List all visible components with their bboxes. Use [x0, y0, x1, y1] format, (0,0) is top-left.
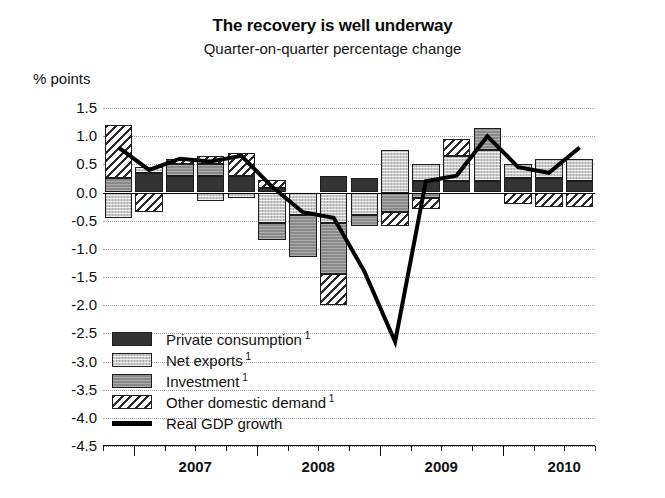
x-tick-minor: [411, 446, 412, 451]
legend-item-line[interactable]: Real GDP growth: [112, 413, 334, 433]
legend-swatch-odd-icon: [112, 395, 152, 409]
footnote-marker: 1: [326, 393, 334, 404]
legend-swatch-inv-icon: [112, 374, 152, 388]
y-tick-label: 1.0: [33, 127, 97, 144]
x-tick-minor: [349, 446, 350, 451]
y-tick-label: 1.5: [33, 99, 97, 116]
y-tick-label: -1.0: [33, 240, 97, 257]
y-tick-label: -4.0: [33, 409, 97, 426]
y-tick-label: 0.0: [33, 184, 97, 201]
x-tick-major: [257, 446, 258, 456]
x-tick-minor: [595, 446, 596, 451]
legend-item-ne[interactable]: Net exports 1: [112, 350, 334, 370]
x-axis-year-label: 2008: [302, 458, 335, 475]
footnote-marker: 1: [243, 351, 251, 362]
chart-title: The recovery is well underway: [0, 16, 665, 36]
x-tick-minor: [288, 446, 289, 451]
x-tick-minor: [472, 446, 473, 451]
y-tick-label: -0.5: [33, 212, 97, 229]
footnote-marker: 1: [239, 372, 247, 383]
legend-label: Net exports 1: [166, 351, 251, 369]
footnote-marker: 1: [302, 330, 310, 341]
y-tick-label: 0.5: [33, 155, 97, 172]
legend-item-pc[interactable]: Private consumption 1: [112, 329, 334, 349]
x-axis-year-label: 2010: [548, 458, 581, 475]
legend-label: Investment 1: [166, 372, 248, 390]
y-tick-label: -2.5: [33, 324, 97, 341]
x-tick-minor: [165, 446, 166, 451]
x-tick-minor: [564, 446, 565, 451]
x-axis-labels: 2007200820092010: [103, 458, 595, 482]
x-axis-year-label: 2009: [425, 458, 458, 475]
chart-container: The recovery is well underway Quarter-on…: [0, 0, 665, 498]
legend-swatch-ne-icon: [112, 353, 152, 367]
zero-baseline: [103, 193, 595, 194]
x-tick-minor: [103, 446, 104, 451]
y-axis-unit-label: % points: [33, 70, 91, 87]
legend-label: Other domestic demand 1: [166, 393, 334, 411]
y-axis-tick-labels: 1.51.00.50.0-0.5-1.0-1.5-2.0-2.5-3.0-3.5…: [29, 108, 97, 446]
x-tick-major: [503, 446, 504, 456]
legend-label: Real GDP growth: [166, 415, 282, 432]
y-tick-label: -4.5: [33, 437, 97, 454]
chart-legend: Private consumption 1Net exports 1Invest…: [112, 329, 334, 434]
x-tick-minor: [226, 446, 227, 451]
chart-subtitle: Quarter-on-quarter percentage change: [0, 40, 665, 57]
legend-swatch-line-icon: [112, 416, 152, 430]
x-tick-major: [134, 446, 135, 456]
gdp-growth-polyline: [118, 136, 579, 342]
y-tick-label: -3.5: [33, 381, 97, 398]
legend-swatch-pc-icon: [112, 332, 152, 346]
legend-label: Private consumption 1: [166, 330, 310, 348]
x-axis-year-label: 2007: [179, 458, 212, 475]
x-tick-minor: [534, 446, 535, 451]
x-tick-minor: [318, 446, 319, 451]
x-tick-major: [380, 446, 381, 456]
y-tick-label: -2.0: [33, 296, 97, 313]
x-axis-ticks: [103, 446, 595, 458]
legend-item-odd[interactable]: Other domestic demand 1: [112, 392, 334, 412]
legend-item-inv[interactable]: Investment 1: [112, 371, 334, 391]
y-tick-label: -1.5: [33, 268, 97, 285]
x-tick-minor: [195, 446, 196, 451]
x-tick-minor: [441, 446, 442, 451]
y-tick-label: -3.0: [33, 353, 97, 370]
